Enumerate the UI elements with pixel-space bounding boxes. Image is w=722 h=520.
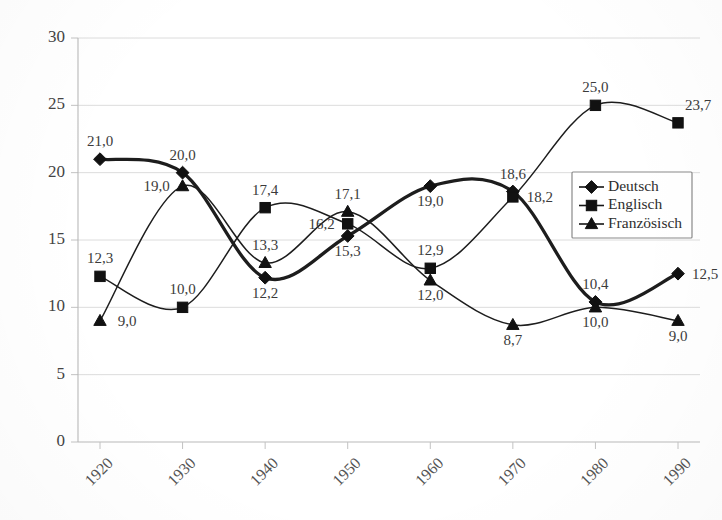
line-chart: 0510152025301920193019401950196019701980… xyxy=(0,0,722,520)
data-point-deutsch-1960 xyxy=(424,180,437,193)
y-axis-label-5: 5 xyxy=(57,364,66,383)
x-axis-label-1990: 1990 xyxy=(659,454,694,489)
x-axis-label-1930: 1930 xyxy=(164,454,199,489)
data-point-englisch-1980 xyxy=(590,100,600,110)
legend-label-englisch: Englisch xyxy=(608,195,662,212)
data-point-englisch-1950 xyxy=(343,219,353,229)
legend-label-deutsch: Deutsch xyxy=(608,177,659,194)
data-point-englisch-1920 xyxy=(95,271,105,281)
y-axis-label-15: 15 xyxy=(48,229,65,248)
data-label-franzoesisch-1950: 17,1 xyxy=(335,186,361,202)
data-label-franzoesisch-1980: 10,0 xyxy=(582,314,608,330)
data-label-franzoesisch-1930: 19,0 xyxy=(143,178,169,194)
data-label-englisch-1930: 10,0 xyxy=(169,281,195,297)
data-label-franzoesisch-1920: 9,0 xyxy=(118,313,137,329)
data-label-englisch-1970: 18,2 xyxy=(527,189,553,205)
data-label-deutsch-1930: 20,0 xyxy=(169,147,195,163)
data-point-englisch-1930 xyxy=(177,302,187,312)
data-label-franzoesisch-1990: 9,0 xyxy=(669,328,688,344)
data-point-englisch-1970 xyxy=(508,192,518,202)
y-axis-label-30: 30 xyxy=(48,27,65,46)
data-label-englisch-1940: 17,4 xyxy=(252,182,279,198)
data-label-deutsch-1970: 18,6 xyxy=(500,166,527,182)
chart-canvas: 0510152025301920193019401950196019701980… xyxy=(0,0,722,520)
data-point-deutsch-1940 xyxy=(259,271,272,284)
y-axis-label-0: 0 xyxy=(57,431,66,450)
y-axis-label-25: 25 xyxy=(48,94,65,113)
data-point-deutsch-1990 xyxy=(672,267,685,280)
data-label-deutsch-1940: 12,2 xyxy=(252,285,278,301)
y-axis-label-20: 20 xyxy=(48,162,65,181)
x-axis-label-1970: 1970 xyxy=(494,454,529,489)
data-point-franzoesisch-1960 xyxy=(424,274,436,285)
data-point-deutsch-1920 xyxy=(94,153,107,166)
data-label-deutsch-1980: 10,4 xyxy=(582,276,609,292)
data-label-englisch-1980: 25,0 xyxy=(582,79,608,95)
data-label-englisch-1950: 16,2 xyxy=(309,216,335,232)
data-point-franzoesisch-1950 xyxy=(342,205,354,216)
data-point-englisch-1940 xyxy=(260,202,270,212)
x-axis-label-1950: 1950 xyxy=(329,454,364,489)
data-label-franzoesisch-1960: 12,0 xyxy=(417,287,443,303)
legend-label-franzoesisch: Französisch xyxy=(608,214,682,231)
data-label-deutsch-1960: 19,0 xyxy=(417,193,443,209)
legend-marker-englisch-icon xyxy=(586,200,596,210)
x-axis-label-1920: 1920 xyxy=(81,454,116,489)
x-axis-label-1980: 1980 xyxy=(577,454,612,489)
data-point-englisch-1960 xyxy=(425,263,435,273)
data-label-englisch-1920: 12,3 xyxy=(87,250,113,266)
data-label-englisch-1960: 12,9 xyxy=(417,242,443,258)
x-axis-label-1940: 1940 xyxy=(247,454,282,489)
data-label-deutsch-1950: 15,3 xyxy=(335,243,361,259)
data-label-franzoesisch-1940: 13,3 xyxy=(252,237,278,253)
y-axis-label-10: 10 xyxy=(48,296,65,315)
x-axis-label-1960: 1960 xyxy=(412,454,447,489)
data-label-deutsch-1920: 21,0 xyxy=(87,133,113,149)
data-point-franzoesisch-1920 xyxy=(94,314,106,325)
data-label-englisch-1990: 23,7 xyxy=(685,97,712,113)
data-label-deutsch-1990: 12,5 xyxy=(692,266,718,282)
data-point-englisch-1990 xyxy=(673,118,683,128)
data-label-franzoesisch-1970: 8,7 xyxy=(503,332,522,348)
